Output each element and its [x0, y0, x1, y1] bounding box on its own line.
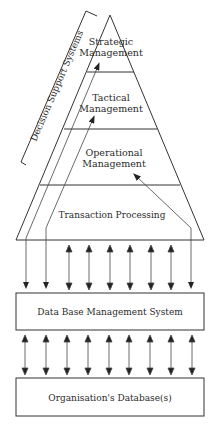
double-arrow	[148, 245, 154, 290]
double-arrow	[22, 335, 28, 375]
dbms-label: Data Base Management System	[37, 307, 183, 317]
dbms-database-arrows	[22, 335, 195, 375]
double-arrow	[147, 335, 153, 375]
level-strategic-line1: Strategic	[89, 36, 133, 47]
level-tactical-line1: Tactical	[92, 92, 129, 103]
double-arrow	[66, 245, 72, 290]
double-arrow	[126, 335, 132, 375]
double-arrow	[107, 245, 113, 290]
level-transaction: Transaction Processing	[59, 210, 166, 220]
level-strategic-line2: Management	[79, 47, 143, 58]
double-arrow	[189, 335, 195, 375]
level-tactical-line2: Management	[79, 103, 143, 114]
double-arrow	[85, 335, 91, 375]
double-arrow	[168, 335, 174, 375]
level-operational-line1: Operational	[85, 147, 142, 158]
double-arrow	[86, 245, 92, 290]
double-arrow	[127, 245, 133, 290]
double-arrow	[43, 335, 49, 375]
level-operational-line2: Management	[82, 158, 146, 169]
mis-pyramid-diagram: Strategic Management Tactical Management…	[0, 0, 216, 429]
dss-bracket-label: Decision Support Systems	[29, 29, 86, 143]
double-arrow	[64, 335, 70, 375]
double-arrow	[168, 245, 174, 290]
database-label: Organisation's Database(s)	[48, 393, 171, 403]
pyramid-dbms-arrows	[66, 245, 174, 290]
double-arrow	[106, 335, 112, 375]
flow-to-tactical	[46, 119, 93, 282]
flow-to-operational	[136, 176, 191, 282]
